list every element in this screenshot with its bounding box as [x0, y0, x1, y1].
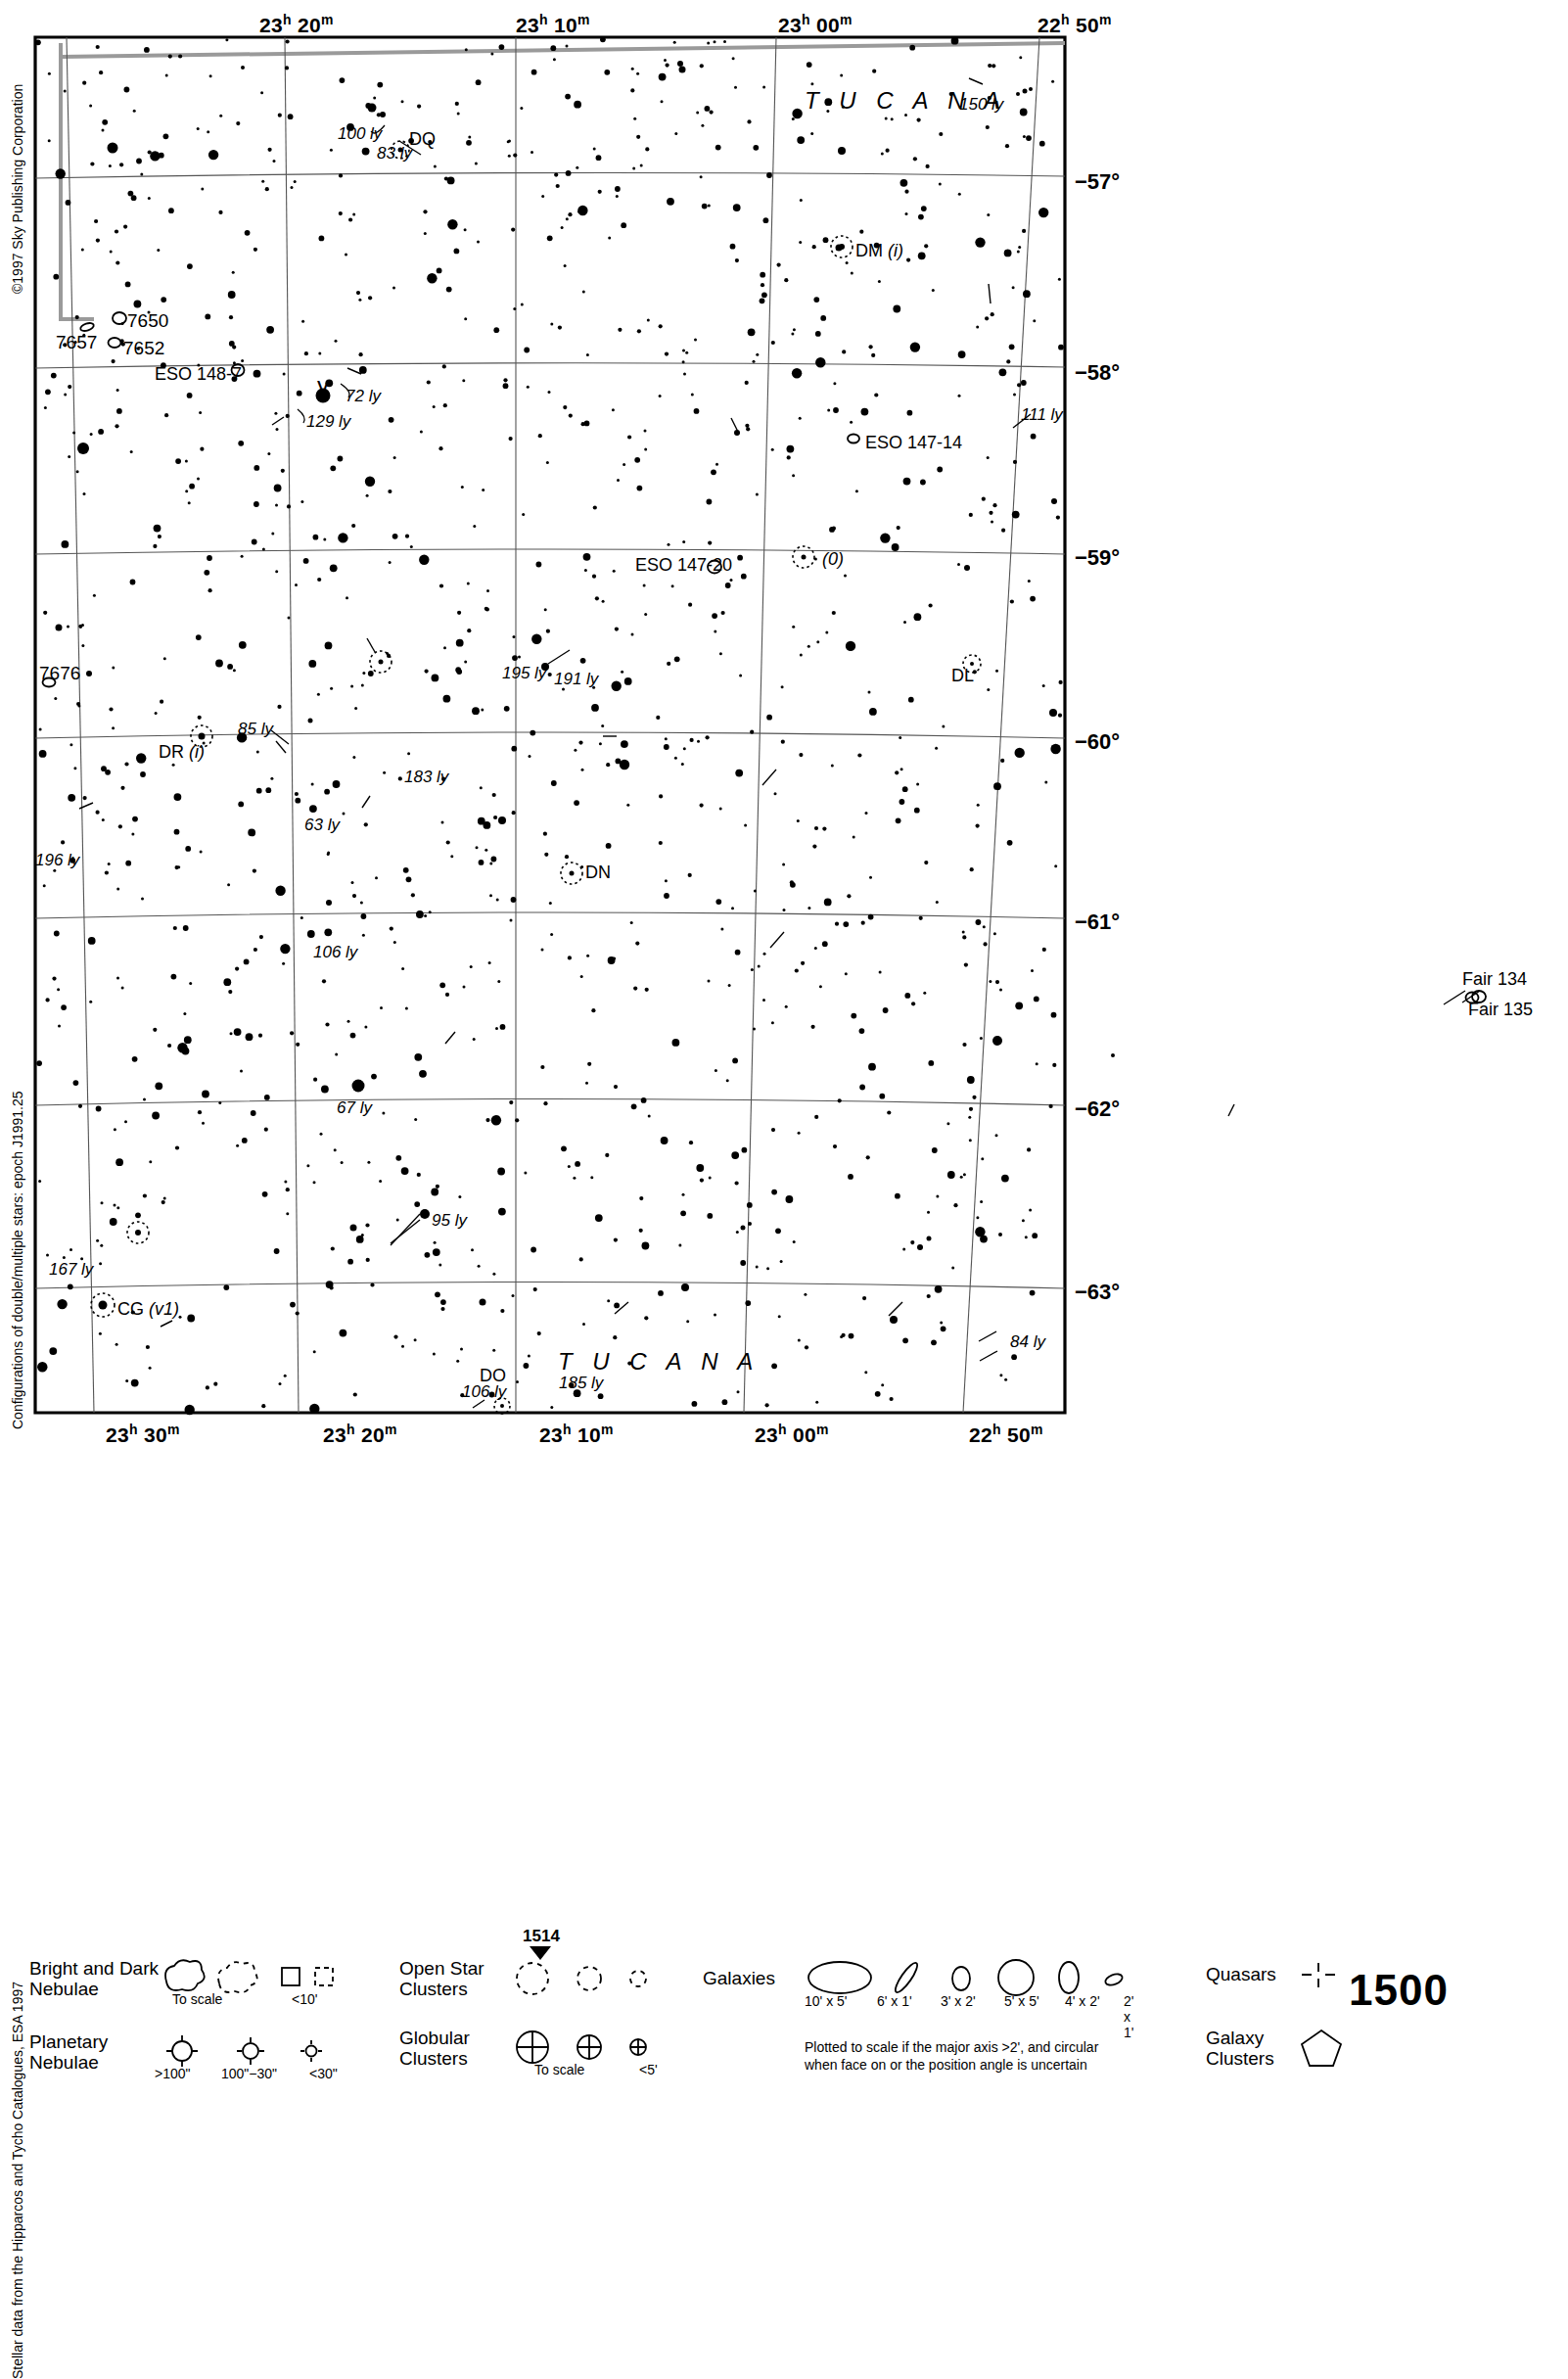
- star: [579, 1257, 583, 1261]
- star: [896, 817, 901, 823]
- star: [846, 261, 849, 264]
- star: [515, 1118, 519, 1122]
- star: [846, 641, 855, 651]
- star: [910, 342, 920, 351]
- star: [737, 555, 743, 561]
- star: [714, 40, 716, 43]
- constellation-boundary: [61, 43, 1065, 319]
- star: [39, 750, 47, 758]
- star: [623, 463, 625, 466]
- star: [797, 819, 800, 822]
- star: [992, 503, 996, 507]
- star: [524, 348, 530, 353]
- star: [288, 114, 294, 119]
- star: [518, 655, 521, 658]
- star: [642, 1242, 650, 1250]
- map-label-72-ly: 72 ly: [346, 387, 381, 406]
- star: [57, 988, 60, 991]
- star: [38, 1180, 41, 1183]
- star: [744, 823, 747, 826]
- star: [303, 558, 309, 564]
- star: [485, 1118, 489, 1122]
- star: [377, 82, 383, 88]
- star: [242, 1138, 248, 1143]
- star: [700, 175, 703, 178]
- map-label-111-ly: 111 ly: [1021, 405, 1063, 425]
- star: [771, 448, 774, 451]
- star: [309, 1404, 319, 1414]
- star: [902, 1337, 908, 1343]
- star: [1058, 714, 1062, 718]
- star: [434, 1241, 437, 1244]
- deep-sky-objects: [43, 312, 1487, 1003]
- star: [445, 993, 449, 997]
- star: [1039, 141, 1045, 147]
- chart-legend: Bright and Dark Nebulae To scale <10': [0, 1929, 1568, 2136]
- star: [547, 235, 553, 241]
- star: [254, 465, 259, 471]
- star: [607, 1299, 610, 1302]
- star: [420, 431, 423, 434]
- star: [406, 876, 412, 882]
- star: [591, 1008, 595, 1012]
- star: [530, 1247, 536, 1253]
- star: [174, 793, 182, 801]
- star: [674, 656, 680, 662]
- star: [143, 1098, 146, 1101]
- map-label-7652: 7652: [123, 338, 164, 359]
- star: [741, 574, 747, 580]
- star: [771, 1190, 777, 1195]
- star: [763, 953, 766, 956]
- legend-planetary-size-1: >100": [155, 2066, 191, 2081]
- star: [596, 155, 602, 161]
- star: [659, 73, 667, 81]
- star: [290, 1302, 296, 1308]
- star: [330, 149, 333, 152]
- star: [1000, 759, 1004, 763]
- star: [847, 894, 851, 898]
- star: [233, 669, 236, 672]
- star: [939, 132, 943, 136]
- star: [246, 1033, 254, 1041]
- star: [1005, 144, 1009, 148]
- star: [498, 1208, 506, 1216]
- star: [309, 805, 317, 813]
- star: [712, 613, 717, 619]
- star: [58, 1025, 61, 1028]
- star: [982, 497, 986, 501]
- star: [936, 901, 939, 904]
- star: [799, 753, 803, 757]
- star: [544, 853, 548, 857]
- star: [455, 102, 459, 106]
- star: [987, 213, 990, 216]
- star: [1015, 1002, 1023, 1009]
- star: [236, 121, 240, 125]
- star: [548, 673, 552, 676]
- star: [1023, 290, 1031, 298]
- star: [707, 1213, 713, 1219]
- star: [700, 804, 704, 808]
- star: [851, 1013, 856, 1019]
- star: [499, 44, 505, 50]
- star: [273, 160, 276, 163]
- star: [253, 869, 256, 873]
- star: [833, 407, 839, 413]
- star: [1025, 1236, 1028, 1238]
- star: [248, 829, 255, 837]
- variable-star-markers: [91, 141, 981, 1414]
- galaxy-7652: [109, 338, 121, 348]
- star-chart-page: 23h 20m23h 10m23h 00m22h 50m 23h 30m23h …: [0, 0, 1568, 2136]
- star: [935, 747, 938, 750]
- star: [88, 937, 96, 945]
- star: [340, 1329, 347, 1337]
- star: [771, 341, 775, 345]
- star: [631, 68, 634, 70]
- star: [348, 217, 352, 221]
- star: [464, 317, 467, 320]
- star: [114, 1128, 116, 1131]
- open-cluster-symbols: [509, 1956, 675, 2001]
- star: [115, 424, 118, 428]
- star: [541, 195, 544, 198]
- star: [580, 975, 583, 978]
- star: [897, 526, 900, 530]
